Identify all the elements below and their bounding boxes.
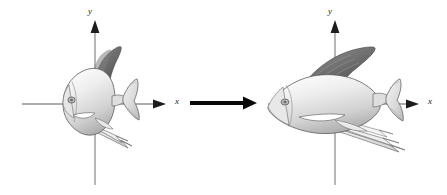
- fish-transformed: [223, 0, 447, 195]
- fish-eye-pupil: [70, 99, 73, 101]
- y-axis-label: y: [88, 7, 92, 16]
- x-axis-label: x: [428, 97, 432, 106]
- transformed-figure-panel: x y: [223, 0, 447, 195]
- fish-tail-fin: [123, 79, 139, 120]
- original-figure-panel: x y: [0, 0, 224, 195]
- y-axis-label: y: [328, 7, 332, 16]
- fish-original: [0, 0, 224, 195]
- figure-canvas: x y: [0, 0, 447, 195]
- x-axis-label: x: [175, 97, 179, 106]
- fish-eye-pupil: [284, 101, 287, 103]
- fish-tail-fin: [386, 79, 403, 121]
